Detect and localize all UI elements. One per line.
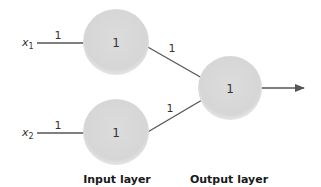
input-node-2-label: 1	[112, 126, 120, 140]
input-x2-label: x2	[21, 126, 34, 141]
weight-node1-output: 1	[169, 42, 176, 55]
input-node-1-label: 1	[112, 36, 120, 50]
weight-node2-output: 1	[167, 102, 174, 115]
weight-x2: 1	[55, 119, 62, 132]
output-node-label: 1	[226, 82, 234, 96]
weight-x1: 1	[55, 29, 62, 42]
edge-input-node-2-to-output	[146, 100, 202, 133]
neural-network-diagram: 1 1 1 x1 x2 1 1 1 1 Input layer Output l…	[0, 0, 321, 187]
input-x1-label: x1	[21, 36, 34, 51]
output-layer-label: Output layer	[190, 173, 269, 186]
input-layer-label: Input layer	[83, 173, 151, 186]
